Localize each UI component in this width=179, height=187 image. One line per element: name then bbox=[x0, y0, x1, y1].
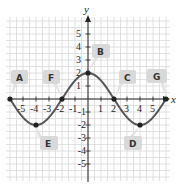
x-tick-label: 2 bbox=[111, 103, 116, 114]
data-point bbox=[85, 70, 90, 75]
x-axis-label: x bbox=[170, 93, 176, 105]
x-tick-label: -4 bbox=[30, 103, 38, 114]
y-tick-label: -4 bbox=[78, 145, 86, 156]
y-tick-label: 1 bbox=[76, 80, 81, 91]
y-tick-label: -2 bbox=[78, 119, 86, 130]
data-point bbox=[33, 122, 38, 127]
callout-A: A bbox=[11, 70, 28, 97]
x-tick-label: 1 bbox=[98, 103, 103, 114]
x-tick-label: -1 bbox=[69, 103, 77, 114]
y-tick-label: -3 bbox=[78, 132, 86, 143]
data-point bbox=[7, 96, 12, 101]
x-tick-label: 5 bbox=[150, 103, 155, 114]
y-tick-label: 4 bbox=[76, 41, 81, 52]
data-point bbox=[111, 96, 116, 101]
data-point bbox=[137, 122, 142, 127]
svg-text:E: E bbox=[45, 139, 51, 149]
y-tick-label: 5 bbox=[76, 28, 81, 39]
svg-text:D: D bbox=[129, 139, 136, 149]
x-tick-label: -3 bbox=[43, 103, 51, 114]
data-point bbox=[163, 96, 168, 101]
data-point bbox=[59, 96, 64, 101]
graph: x y -5 -4 -3 -2 -1 1 2 3 4 5 5 4 3 2 1 -… bbox=[0, 0, 179, 187]
y-tick-label: -5 bbox=[78, 158, 86, 169]
svg-text:G: G bbox=[153, 72, 160, 82]
x-tick-label: 4 bbox=[137, 103, 142, 114]
y-tick-label: -1 bbox=[78, 106, 86, 117]
x-tick-label: 3 bbox=[124, 103, 129, 114]
svg-text:B: B bbox=[97, 47, 104, 57]
y-axis-arrow-icon bbox=[85, 15, 91, 22]
svg-text:A: A bbox=[16, 73, 23, 83]
callout-F: F bbox=[43, 70, 62, 97]
callout-C: C bbox=[115, 70, 136, 97]
y-tick-label: 3 bbox=[76, 54, 81, 65]
svg-text:F: F bbox=[48, 73, 54, 83]
svg-text:C: C bbox=[124, 73, 131, 83]
y-axis-label: y bbox=[83, 3, 89, 15]
